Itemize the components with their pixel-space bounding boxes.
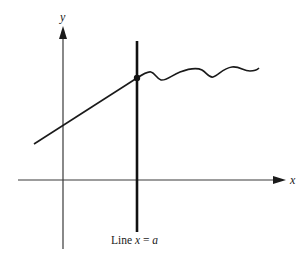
intersection-point: [134, 75, 140, 81]
wavy-curve: [137, 67, 259, 80]
vertical-line-label: Line x = a: [111, 234, 158, 246]
left-line-segment: [34, 78, 137, 144]
label-prefix: Line: [111, 234, 135, 246]
x-axis: [18, 176, 286, 184]
y-axis-label: y: [59, 10, 66, 24]
label-eq: =: [140, 234, 152, 246]
y-axis-arrow-icon: [59, 26, 67, 39]
diagram-canvas: y x Line x = a: [0, 0, 308, 262]
label-val: a: [152, 234, 158, 246]
x-axis-arrow-icon: [273, 176, 286, 184]
y-axis: [59, 26, 67, 249]
x-axis-label: x: [289, 173, 296, 187]
